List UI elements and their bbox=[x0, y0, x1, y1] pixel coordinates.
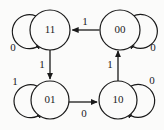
state-label-11: 11 bbox=[45, 23, 56, 35]
state-diagram-svg: 11 00 01 10 1 1 0 1 0 0 1 0 bbox=[0, 0, 164, 130]
transition-label-11-to-01: 1 bbox=[39, 58, 45, 70]
self-loop-label-01: 1 bbox=[12, 75, 18, 87]
self-loop-label-11: 0 bbox=[10, 41, 16, 53]
self-loop-label-10: 0 bbox=[149, 74, 155, 86]
self-loop-label-00: 0 bbox=[150, 41, 156, 53]
state-label-10: 10 bbox=[113, 93, 125, 105]
state-label-00: 00 bbox=[115, 23, 127, 35]
state-diagram-canvas: 11 00 01 10 1 1 0 1 0 0 1 0 bbox=[0, 0, 164, 130]
state-label-01: 01 bbox=[45, 93, 56, 105]
transition-label-01-to-10: 0 bbox=[81, 107, 87, 119]
transition-label-00-to-11: 1 bbox=[82, 15, 88, 27]
transition-label-10-to-00: 1 bbox=[107, 58, 113, 70]
